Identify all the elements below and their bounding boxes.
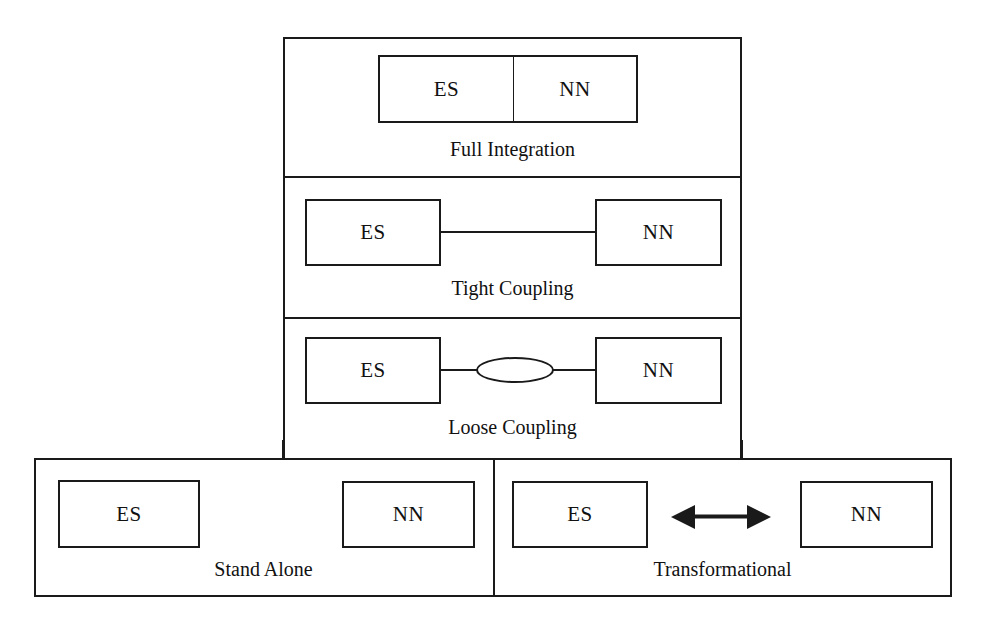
diagram-canvas: ES NN Full Integration ES NN Tight Coupl… — [0, 0, 987, 635]
double-headed-arrow-transformational — [671, 500, 771, 534]
node-label-nn: NN — [393, 504, 424, 525]
caption-loose-coupling: Loose Coupling — [283, 417, 742, 437]
caption-transformational: Transformational — [493, 559, 952, 579]
node-nn-stand-alone: NN — [342, 481, 475, 548]
connector-line-right-loose-coupling — [552, 369, 595, 371]
node-nn-transformational: NN — [800, 481, 933, 548]
stem-right-connector — [741, 440, 743, 460]
node-es-tight-coupling: ES — [305, 199, 441, 266]
node-label-nn: NN — [643, 222, 674, 243]
node-label-es: ES — [567, 504, 593, 525]
connector-line-tight-coupling — [441, 231, 595, 233]
node-label-nn: NN — [851, 504, 882, 525]
node-label-es: ES — [434, 79, 460, 100]
node-label-nn: NN — [559, 79, 590, 100]
node-nn-loose-coupling: NN — [595, 337, 722, 404]
node-label-es: ES — [360, 360, 386, 381]
interface-ellipse-loose-coupling — [476, 357, 554, 383]
node-nn-tight-coupling: NN — [595, 199, 722, 266]
node-nn-full-integration: NN — [513, 55, 638, 123]
node-es-transformational: ES — [512, 481, 648, 548]
node-es-full-integration: ES — [378, 55, 514, 123]
node-label-es: ES — [360, 222, 386, 243]
caption-tight-coupling: Tight Coupling — [283, 278, 742, 298]
node-label-nn: NN — [643, 360, 674, 381]
node-es-stand-alone: ES — [58, 480, 200, 548]
arrow-head-right-icon — [747, 505, 771, 529]
node-label-es: ES — [116, 504, 142, 525]
caption-stand-alone: Stand Alone — [34, 559, 493, 579]
caption-full-integration: Full Integration — [283, 139, 742, 159]
node-es-loose-coupling: ES — [305, 337, 441, 404]
connector-line-left-loose-coupling — [441, 369, 478, 371]
arrow-shaft — [691, 515, 751, 519]
stem-left-connector — [282, 440, 284, 460]
